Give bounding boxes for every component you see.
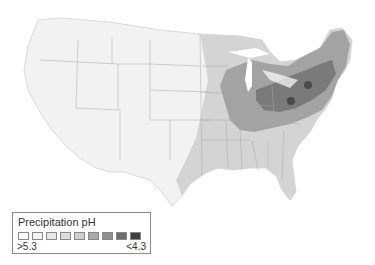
legend: Precipitation pH >5.3 <4.3: [12, 212, 151, 254]
legend-swatch-5: [74, 232, 85, 240]
legend-high-label: <4.3: [126, 241, 146, 252]
legend-swatch-1: [18, 232, 29, 240]
legend-swatches: [18, 232, 141, 240]
legend-title: Precipitation pH: [18, 216, 96, 228]
hotspot-ohio: [287, 97, 295, 105]
legend-swatch-7: [102, 232, 113, 240]
legend-swatch-4: [60, 232, 71, 240]
legend-swatch-2: [32, 232, 43, 240]
hotspot-pennsylvania: [304, 81, 312, 89]
legend-swatch-8: [116, 232, 127, 240]
legend-swatch-6: [88, 232, 99, 240]
legend-swatch-3: [46, 232, 57, 240]
legend-swatch-9: [130, 232, 141, 240]
legend-low-label: >5.3: [17, 241, 37, 252]
